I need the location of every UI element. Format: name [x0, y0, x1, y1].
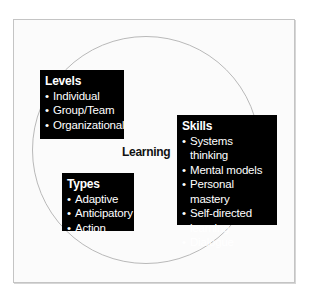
bullet-icon: •: [45, 118, 49, 133]
bullet-icon: •: [67, 221, 71, 236]
skills-box: Skills •Systems thinking •Mental models …: [177, 115, 277, 225]
bullet-icon: •: [45, 89, 49, 104]
types-box: Types •Adaptive •Anticipatory •Action: [62, 173, 134, 231]
bullet-icon: •: [45, 103, 49, 118]
types-list: •Adaptive •Anticipatory •Action: [67, 192, 129, 236]
levels-list: •Individual •Group/Team •Organizational: [45, 89, 119, 133]
levels-title: Levels: [45, 74, 119, 89]
bullet-icon: •: [182, 206, 186, 221]
types-title: Types: [67, 177, 129, 192]
list-item: •Adaptive: [67, 192, 129, 207]
list-item: •Organizational: [45, 118, 119, 133]
skills-list: •Systems thinking •Mental models •Person…: [182, 134, 272, 250]
bullet-icon: •: [67, 206, 71, 221]
list-item: •Anticipatory: [67, 206, 129, 221]
list-item: •Mental models: [182, 163, 272, 178]
bullet-icon: •: [182, 163, 186, 178]
list-item: •Action: [67, 221, 129, 236]
list-item: •Systems thinking: [182, 134, 272, 163]
bullet-icon: •: [182, 177, 186, 192]
levels-box: Levels •Individual •Group/Team •Organiza…: [40, 70, 124, 139]
center-label: Learning: [122, 145, 170, 159]
list-item: •Group/Team: [45, 103, 119, 118]
list-item: •Self-directed: [182, 206, 272, 221]
list-item: •Individual: [45, 89, 119, 104]
skills-title: Skills: [182, 119, 272, 134]
bullet-icon: •: [67, 192, 71, 207]
list-item: •Dialogue: [182, 235, 272, 250]
bullet-icon: •: [182, 134, 186, 149]
list-item: •Personal mastery: [182, 177, 272, 206]
bullet-icon: •: [182, 235, 186, 250]
list-item-continuation: learning: [182, 221, 272, 236]
